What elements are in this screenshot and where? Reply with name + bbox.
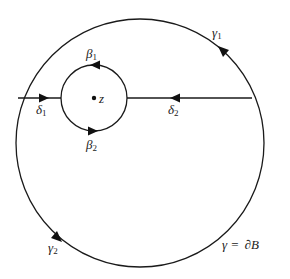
label-gamma2: γ2	[48, 240, 58, 256]
label-delta2: δ2	[168, 102, 179, 118]
contour-diagram: γ1 γ2 β1 β2 δ1 δ2 z γ=∂B	[0, 0, 290, 279]
label-beta1: β1	[85, 46, 97, 62]
beta2-arrow-icon	[88, 127, 98, 136]
label-beta2: β2	[85, 137, 97, 153]
point-z	[92, 96, 96, 100]
label-gamma1: γ1	[212, 25, 222, 41]
label-delta1: δ1	[36, 102, 47, 118]
label-z: z	[98, 91, 104, 106]
outer-circle-gamma	[16, 19, 264, 267]
label-boundary: γ=∂B	[222, 237, 259, 252]
